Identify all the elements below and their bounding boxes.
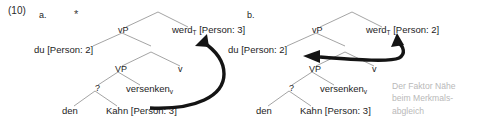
figure-canvas: (10) a. * vP werdT [Person: 3] du [Perso…: [0, 0, 484, 128]
agree-arrow-aux-to-subject: [303, 33, 404, 63]
agree-arrow-object-to-aux: [150, 34, 224, 108]
annotation-text: Der Faktor Nähe beim Merkmals- abgleich: [392, 80, 456, 117]
